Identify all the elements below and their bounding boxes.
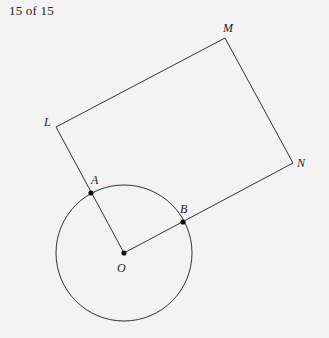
point-o-dot bbox=[121, 250, 126, 255]
geometry-diagram: M L N A B O bbox=[0, 0, 329, 338]
label-l: L bbox=[43, 115, 51, 129]
point-a-dot bbox=[88, 190, 93, 195]
label-b: B bbox=[180, 202, 188, 216]
label-a: A bbox=[90, 173, 99, 187]
point-b-dot bbox=[180, 219, 185, 224]
rectangle-olmn bbox=[56, 38, 293, 253]
label-o: O bbox=[117, 261, 126, 275]
label-m: M bbox=[222, 21, 234, 35]
label-n: N bbox=[296, 156, 306, 170]
